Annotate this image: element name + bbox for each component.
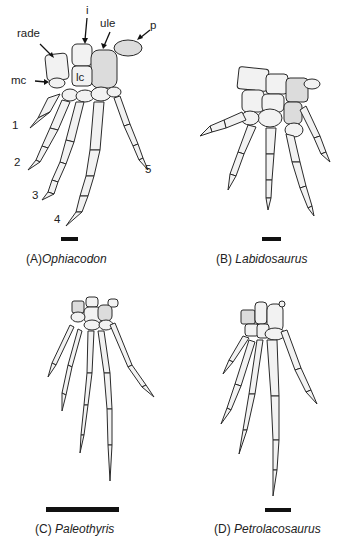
caption-b: (B) Labidosaurus (216, 252, 307, 266)
digit-label-1: 1 (12, 120, 18, 132)
label-mc: mc (11, 75, 26, 87)
scale-bar-a (61, 237, 78, 241)
caption-b-prefix: (B) (216, 252, 235, 266)
caption-c-prefix: (C) (35, 522, 55, 536)
caption-d-species: Petrolacosaurus (234, 522, 321, 536)
labidosaurus-manus-drawing (190, 30, 343, 230)
caption-b-species: Labidosaurus (235, 252, 307, 266)
digit-label-5: 5 (145, 164, 151, 176)
caption-d-prefix: (D) (214, 522, 234, 536)
label-lc: lc (76, 72, 84, 84)
panel-c-paleothyris (30, 285, 160, 510)
panel-d-petrolacosaurus (205, 290, 325, 505)
scale-bar-d (265, 508, 291, 512)
digit-label-4: 4 (54, 214, 60, 226)
scale-bar-b (262, 237, 281, 241)
caption-a: (A)Ophiacodon (26, 252, 107, 266)
petrolacosaurus-manus-drawing (205, 290, 325, 505)
caption-c-species: Paleothyris (55, 522, 114, 536)
label-p: p (150, 20, 156, 32)
label-ule: ule (100, 18, 115, 30)
caption-a-species: Ophiacodon (42, 252, 107, 266)
panel-b-labidosaurus (190, 30, 343, 230)
label-rade: rade (17, 28, 40, 40)
caption-c: (C) Paleothyris (35, 522, 114, 536)
scale-bar-c (46, 507, 119, 512)
caption-d: (D) Petrolacosaurus (214, 522, 321, 536)
paleothyris-manus-drawing (30, 285, 160, 510)
digit-label-2: 2 (14, 157, 20, 169)
panel-a-ophiacodon: rade i ule p mc lc 1 2 3 4 5 (0, 0, 170, 270)
digit-label-3: 3 (32, 190, 38, 202)
label-i: i (86, 5, 89, 17)
caption-a-prefix: (A) (26, 252, 42, 266)
